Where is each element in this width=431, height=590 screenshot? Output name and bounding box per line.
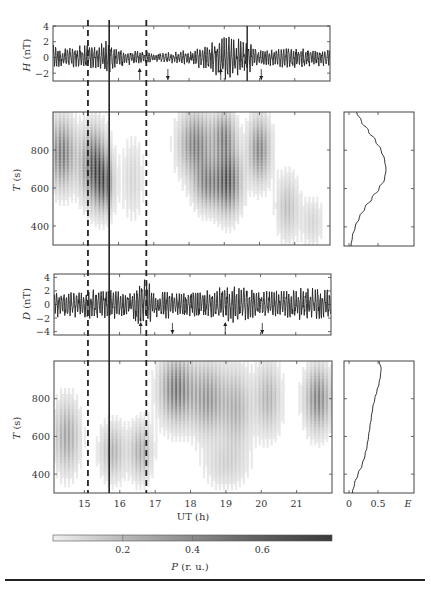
svg-text:0: 0 <box>44 299 50 310</box>
d-spectrogram-heatmap <box>54 361 332 490</box>
svg-text:16: 16 <box>114 498 126 509</box>
h-energy-frame <box>344 112 414 246</box>
figure: 420−2 H (nT) 800600400 T (s) 420−2−4 D (… <box>0 0 431 590</box>
h-spectrogram-panel: 800600400 T (s) <box>11 112 330 245</box>
svg-text:800: 800 <box>31 145 49 156</box>
svg-text:−4: −4 <box>36 326 50 337</box>
svg-text:400: 400 <box>31 221 49 232</box>
h-trace <box>53 37 330 80</box>
svg-text:19: 19 <box>220 498 232 509</box>
d-spectrogram-panel: 800600400 15161718192021 T (s) UT (h) <box>11 361 332 522</box>
d-spectrogram-y-label: T (s) <box>11 417 22 440</box>
d-y-label: D (nT) <box>21 288 32 321</box>
svg-text:0.5: 0.5 <box>370 498 385 509</box>
svg-text:21: 21 <box>291 498 303 509</box>
colorbar: 0.20.40.6 P (r. u.) <box>53 535 332 572</box>
svg-text:4: 4 <box>44 272 50 283</box>
svg-text:800: 800 <box>32 393 50 404</box>
svg-text:2: 2 <box>44 285 50 296</box>
d-panel: 420−2−4 D (nT) <box>21 272 331 337</box>
svg-text:18: 18 <box>184 498 196 509</box>
svg-text:0.6: 0.6 <box>255 544 270 555</box>
svg-text:20: 20 <box>255 498 267 509</box>
h-y-label: H (nT) <box>21 38 32 72</box>
svg-text:−2: −2 <box>35 68 49 79</box>
svg-text:600: 600 <box>31 183 49 194</box>
h-spectrogram-y-label: T (s) <box>11 169 22 192</box>
svg-text:600: 600 <box>32 431 50 442</box>
ut-axis-label: UT (h) <box>177 511 210 522</box>
d-energy-curve <box>352 361 381 493</box>
svg-text:2: 2 <box>43 36 49 47</box>
colorbar-label: P (r. u.) <box>170 561 208 572</box>
svg-text:0.2: 0.2 <box>115 544 130 555</box>
h-panel: 420−2 H (nT) <box>21 21 330 82</box>
e-axis-label: E <box>404 498 412 509</box>
svg-text:0.4: 0.4 <box>185 544 200 555</box>
svg-text:15: 15 <box>78 498 90 509</box>
svg-text:−2: −2 <box>36 313 50 324</box>
h-energy-panel <box>344 112 414 246</box>
svg-text:17: 17 <box>149 498 161 509</box>
d-energy-panel: 00.5 E <box>344 361 414 509</box>
d-trace <box>54 280 331 324</box>
h-energy-curve <box>351 112 386 246</box>
h-spectrogram-heatmap <box>53 112 322 245</box>
svg-text:0: 0 <box>43 52 49 63</box>
svg-text:400: 400 <box>32 469 50 480</box>
svg-text:4: 4 <box>43 21 49 32</box>
svg-text:0: 0 <box>346 498 352 509</box>
h-energy-ticks <box>344 112 414 246</box>
d-arrows <box>139 322 265 334</box>
